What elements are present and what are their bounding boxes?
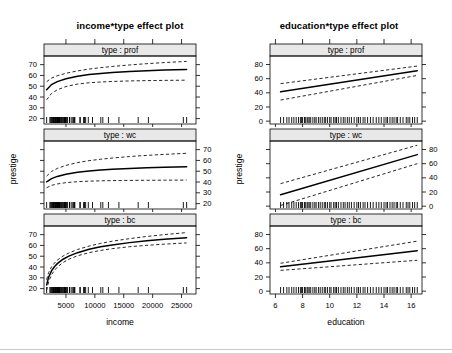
y-axis-label: prestige	[234, 153, 244, 184]
panel-typeprof: type : prof020406080	[255, 44, 426, 127]
lower-confidence-band	[47, 80, 187, 100]
y-tick-label: 60	[203, 156, 211, 165]
x-tick-label: 20000	[142, 301, 163, 310]
strip-label: type : prof	[102, 46, 139, 55]
fitted-effect-line	[281, 251, 418, 267]
rug-plot	[47, 202, 187, 208]
upper-confidence-band	[281, 145, 418, 183]
y-tick-label: 0	[429, 202, 433, 211]
y-tick-label: 40	[29, 93, 37, 102]
lower-confidence-band	[281, 260, 418, 270]
y-tick-label: 40	[29, 263, 37, 272]
x-axis-label: education	[327, 317, 364, 327]
y-tick-label: 20	[429, 188, 437, 197]
fitted-effect-line	[47, 69, 187, 89]
strip-label: type : bc	[105, 216, 136, 225]
fitted-effect-line	[281, 71, 418, 92]
y-tick-label: 60	[255, 244, 263, 253]
fitted-effect-line	[47, 167, 187, 182]
x-tick-label: 10000	[84, 301, 105, 310]
x-tick-label: 8	[300, 301, 304, 310]
x-tick-label: 25000	[171, 301, 192, 310]
y-tick-label: 20	[29, 284, 37, 293]
x-tick-label: 15000	[113, 301, 134, 310]
rug-plot	[47, 117, 187, 123]
fitted-effect-line	[281, 155, 418, 195]
panel-typewc: type : wc203040506070	[40, 129, 211, 212]
upper-confidence-band	[47, 153, 187, 176]
y-tick-label: 70	[203, 145, 211, 154]
rug-plot	[281, 202, 418, 208]
strip-label: type : wc	[330, 131, 362, 140]
x-axis-label: income	[106, 317, 134, 327]
rug-plot	[47, 287, 187, 293]
strip-label: type : bc	[331, 216, 362, 225]
upper-confidence-band	[281, 241, 418, 263]
y-axis-label: prestige	[8, 153, 18, 184]
y-tick-label: 60	[29, 71, 37, 80]
y-tick-label: 30	[29, 273, 37, 282]
lower-confidence-band	[281, 75, 418, 100]
left-plot-title: income*type effect plot	[40, 20, 220, 31]
rug-plot	[281, 117, 418, 123]
rug-plot	[281, 287, 418, 293]
y-tick-label: 40	[255, 258, 263, 267]
x-tick-label: 5000	[58, 301, 75, 310]
fitted-effect-line	[47, 238, 187, 285]
lower-confidence-band	[281, 164, 418, 206]
x-tick-label: 14	[380, 301, 388, 310]
y-tick-label: 70	[29, 60, 37, 69]
y-tick-label: 0	[259, 287, 263, 296]
y-tick-label: 40	[203, 178, 211, 187]
bottom-divider	[0, 349, 452, 350]
y-tick-label: 50	[29, 252, 37, 261]
y-tick-label: 40	[429, 173, 437, 182]
y-tick-label: 80	[255, 60, 263, 69]
x-tick-label: 16	[407, 301, 415, 310]
y-tick-label: 30	[29, 103, 37, 112]
income-type-effect-plot-svg: type : prof203040506070type : wc20304050…	[0, 34, 226, 350]
education-type-effect-plot-svg: type : prof020406080type : wc020406080ty…	[226, 34, 452, 350]
y-tick-label: 40	[255, 88, 263, 97]
x-tick-label: 10	[325, 301, 333, 310]
y-tick-label: 60	[255, 74, 263, 83]
right-plot-title: education*type effect plot	[246, 20, 432, 31]
panel-typewc: type : wc020406080	[266, 129, 437, 212]
effect-plots-canvas: income*type effect plot education*type e…	[0, 0, 452, 353]
x-tick-label: 6	[273, 301, 277, 310]
lower-confidence-band	[47, 243, 187, 290]
x-tick-label: 12	[353, 301, 361, 310]
y-tick-label: 20	[29, 114, 37, 123]
y-tick-label: 80	[255, 230, 263, 239]
panel-typebc: type : bc0204060806810121416	[255, 214, 426, 310]
y-tick-label: 20	[255, 103, 263, 112]
lower-confidence-band	[47, 180, 187, 188]
education-type-effect-plot: type : prof020406080type : wc020406080ty…	[226, 34, 452, 350]
strip-label: type : prof	[328, 46, 365, 55]
y-tick-label: 60	[29, 241, 37, 250]
y-tick-label: 20	[203, 199, 211, 208]
strip-label: type : wc	[104, 131, 136, 140]
panel-typeprof: type : prof203040506070	[29, 44, 200, 127]
y-tick-label: 30	[203, 188, 211, 197]
y-tick-label: 0	[259, 117, 263, 126]
y-tick-label: 70	[29, 230, 37, 239]
y-tick-label: 50	[29, 82, 37, 91]
income-type-effect-plot: type : prof203040506070type : wc20304050…	[0, 34, 226, 350]
panel-typebc: type : bc2030405060705000100001500020000…	[29, 214, 200, 310]
y-tick-label: 60	[429, 159, 437, 168]
y-tick-label: 50	[203, 167, 211, 176]
y-tick-label: 20	[255, 273, 263, 282]
y-tick-label: 80	[429, 145, 437, 154]
